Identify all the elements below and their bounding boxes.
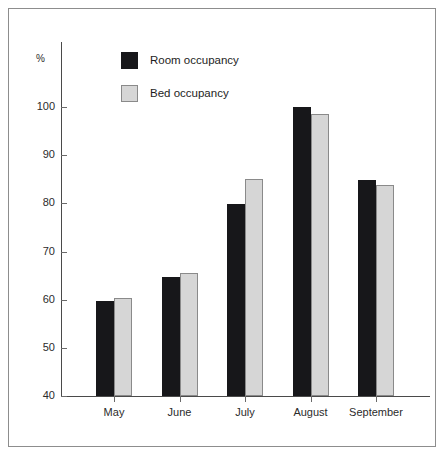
legend-item-bed-occupancy[interactable]: Bed occupancy	[121, 85, 229, 102]
y-tick-label-wrap: 100	[26, 101, 55, 113]
x-tick-label-september: September	[349, 406, 403, 419]
bar-september-bed-occupancy	[376, 185, 394, 396]
y-axis-line	[61, 42, 62, 397]
legend-swatch-bed-icon	[121, 85, 138, 102]
y-tick-label-wrap: 70	[26, 246, 55, 258]
legend-item-room-occupancy[interactable]: Room occupancy	[121, 52, 239, 69]
x-tick-label-june: June	[168, 406, 192, 419]
x-tick-mark	[245, 396, 246, 402]
x-tick-mark	[311, 396, 312, 402]
y-tick-label-wrap: 50	[26, 342, 55, 354]
x-tick-label-may: May	[104, 406, 125, 419]
y-tick-label: 90	[29, 149, 55, 160]
y-tick-mark	[61, 155, 67, 156]
x-tick-mark	[114, 396, 115, 402]
chart-figure: % 100908070605040 MayJuneJulyAugustSepte…	[0, 0, 446, 461]
legend-label: Room occupancy	[150, 55, 239, 67]
bar-june-bed-occupancy	[180, 273, 198, 396]
bar-july-bed-occupancy	[245, 179, 263, 396]
y-tick-mark	[61, 203, 67, 204]
x-tick-mark	[376, 396, 377, 402]
y-tick-mark	[61, 107, 67, 108]
x-tick-label-august: August	[293, 406, 327, 419]
y-axis-unit-label: %	[36, 54, 45, 64]
y-tick-label: 80	[29, 197, 55, 208]
y-tick-label: 70	[29, 246, 55, 257]
y-tick-mark	[61, 348, 67, 349]
bar-august-bed-occupancy	[311, 114, 329, 396]
y-tick-label: 50	[29, 342, 55, 353]
y-tick-mark	[61, 396, 67, 397]
y-tick-label-wrap: 40	[26, 390, 55, 402]
y-tick-mark	[61, 300, 67, 301]
y-tick-mark	[61, 252, 67, 253]
bar-june-room-occupancy	[162, 277, 180, 396]
x-tick-mark	[180, 396, 181, 402]
bar-may-room-occupancy	[96, 301, 114, 396]
bar-september-room-occupancy	[358, 180, 376, 396]
bar-may-bed-occupancy	[114, 298, 132, 396]
y-tick-label-wrap: 90	[26, 149, 55, 161]
y-tick-label: 40	[29, 390, 55, 401]
y-tick-label-wrap: 80	[26, 197, 55, 209]
y-tick-label: 100	[29, 101, 55, 112]
legend-swatch-room-icon	[121, 52, 138, 69]
bar-august-room-occupancy	[293, 107, 311, 396]
y-tick-label-wrap: 60	[26, 294, 55, 306]
y-tick-label: 60	[29, 294, 55, 305]
x-tick-label-july: July	[235, 406, 255, 419]
bar-july-room-occupancy	[227, 204, 245, 396]
legend-label: Bed occupancy	[150, 88, 229, 100]
